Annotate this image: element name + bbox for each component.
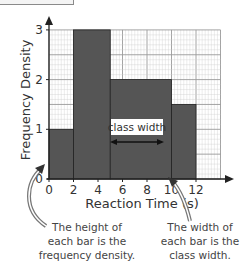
x-axis-arrow-icon — [225, 175, 234, 183]
histogram-bar — [172, 104, 197, 179]
class-width-label: class width — [108, 121, 166, 133]
histogram-bar — [74, 30, 111, 179]
y-tick-label: 2 — [35, 73, 43, 87]
x-tick-label: 6 — [119, 183, 127, 197]
y-tick-labels: 0123 — [35, 23, 49, 186]
width-note: The width of each bar is the class width… — [161, 221, 239, 261]
height-note: The height of each bar is the frequency … — [39, 221, 135, 261]
x-tick-label: 4 — [94, 183, 102, 197]
y-tick-label: 1 — [35, 122, 43, 136]
x-tick-label: 2 — [70, 183, 78, 197]
histogram-bar — [49, 129, 74, 179]
histogram-chart: 0123 024681012 class width Reaction Time… — [0, 0, 246, 269]
x-tick-label: 8 — [143, 183, 151, 197]
svg-text:each bar is the: each bar is the — [48, 235, 126, 247]
svg-text:each bar is the: each bar is the — [161, 235, 239, 247]
svg-text:The height of: The height of — [51, 221, 122, 233]
y-axis-label: Frequency Density — [18, 39, 33, 160]
svg-text:class width.: class width. — [169, 249, 231, 261]
svg-text:frequency density.: frequency density. — [39, 249, 135, 261]
y-tick-label: 3 — [35, 23, 43, 37]
x-tick-label: 0 — [45, 183, 53, 197]
y-axis-arrow-icon — [45, 16, 53, 25]
svg-text:The width of: The width of — [166, 221, 233, 233]
x-tick-label: 12 — [188, 183, 203, 197]
